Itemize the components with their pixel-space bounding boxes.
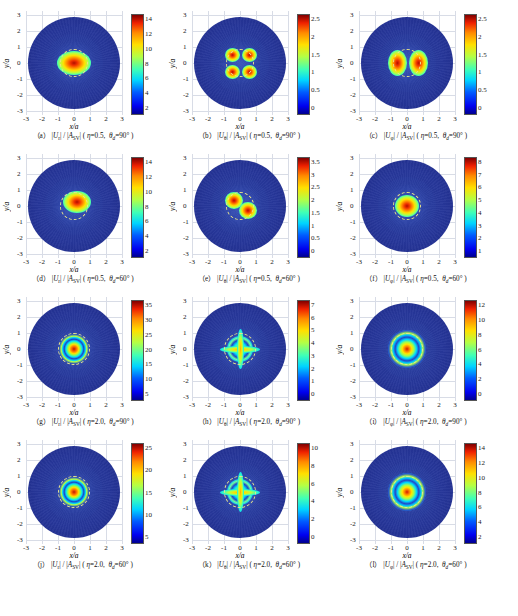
heatmap-disc bbox=[361, 17, 453, 109]
dashed-boundary-ring bbox=[393, 192, 421, 220]
y-axis-tick: -3 bbox=[183, 394, 189, 401]
plot-area: -3-2-101233210-1-2-3 bbox=[359, 440, 455, 544]
panel-caption-b: （b） |Uθ| / |ASV| ( η=0.5, θd=90° ) bbox=[166, 130, 332, 141]
y-axis-tick: -1 bbox=[183, 76, 189, 83]
y-axis-tick: 3 bbox=[17, 155, 21, 162]
dashed-boundary-ring bbox=[224, 333, 256, 365]
grid-line-vertical bbox=[122, 297, 123, 401]
plot-panel-c: y/a-3-2-101233210-1-2-3x/a2.521.510.50（c… bbox=[333, 0, 499, 143]
y-axis-tick: 2 bbox=[350, 457, 354, 464]
colorbar-tick: 3 bbox=[311, 352, 315, 360]
y-axis-tick: 3 bbox=[350, 155, 354, 162]
y-axis-tick: 1 bbox=[350, 330, 354, 337]
y-axis-tick: -3 bbox=[350, 108, 356, 115]
y-axis-tick: 3 bbox=[183, 441, 187, 448]
colorbar-tick: 3.5 bbox=[311, 158, 320, 166]
plot-panel-g: y/a-3-2-101233210-1-2-3x/a3530252015105（… bbox=[0, 286, 166, 429]
y-axis-tick: 1 bbox=[183, 44, 187, 51]
y-axis-tick: 0 bbox=[183, 203, 187, 210]
heatmap-disc bbox=[361, 446, 453, 538]
colorbar-tick: 4 bbox=[478, 518, 482, 526]
grid-line-horizontal bbox=[359, 254, 455, 255]
plot-panel-f: y/a-3-2-101233210-1-2-3x/a87654321（f） |U… bbox=[333, 143, 499, 286]
colorbar bbox=[297, 14, 310, 115]
y-axis-tick: 0 bbox=[183, 60, 187, 67]
colorbar bbox=[464, 157, 477, 258]
colorbar-tick: 6 bbox=[478, 346, 482, 354]
colorbar-tick: 14 bbox=[478, 444, 485, 452]
colorbar-tick: 4 bbox=[145, 232, 149, 240]
axes-background bbox=[192, 297, 288, 401]
colorbar-tick: 14 bbox=[145, 158, 152, 166]
colorbar-tick: 2 bbox=[311, 515, 315, 523]
plot-area: -3-2-101233210-1-2-3 bbox=[26, 297, 122, 401]
y-axis-tick: -2 bbox=[183, 378, 189, 385]
y-axis-tick: 3 bbox=[17, 298, 21, 305]
grid-line-horizontal bbox=[192, 397, 288, 398]
colorbar-tick: 2 bbox=[478, 533, 482, 541]
y-axis-tick: -1 bbox=[17, 362, 23, 369]
colorbar-tick: 6 bbox=[478, 183, 482, 191]
y-axis-tick: -2 bbox=[183, 235, 189, 242]
colorbar bbox=[297, 157, 310, 258]
dashed-boundary-ring bbox=[224, 476, 256, 508]
colorbar-tick: 0.5 bbox=[478, 86, 487, 94]
colorbar-tick: 5 bbox=[145, 533, 149, 541]
y-axis-tick: 2 bbox=[350, 28, 354, 35]
y-axis-tick: -2 bbox=[183, 521, 189, 528]
y-axis-label: y/a bbox=[1, 440, 11, 544]
y-axis-tick: 1 bbox=[17, 187, 21, 194]
y-axis-tick: -2 bbox=[17, 235, 23, 242]
y-axis-tick: -1 bbox=[183, 362, 189, 369]
colorbar-tick: 1 bbox=[478, 247, 482, 255]
y-axis-tick: -1 bbox=[17, 505, 23, 512]
plot-area: -3-2-101233210-1-2-3 bbox=[26, 440, 122, 544]
y-axis-label: y/a bbox=[167, 440, 177, 544]
y-axis-tick: 0 bbox=[350, 346, 354, 353]
y-axis-tick: 0 bbox=[183, 346, 187, 353]
y-axis-tick: -1 bbox=[17, 76, 23, 83]
colorbar-tick: 8 bbox=[311, 462, 315, 470]
y-axis-tick: -3 bbox=[350, 394, 356, 401]
panel-caption-g: （g） |Ur| / |ASV| ( η=2.0, θd=90° ) bbox=[0, 416, 166, 427]
y-axis-tick: 1 bbox=[183, 187, 187, 194]
y-axis-tick: 1 bbox=[350, 187, 354, 194]
y-axis-tick: -2 bbox=[350, 92, 356, 99]
y-axis-tick: 1 bbox=[17, 44, 21, 51]
colorbar-tick: 12 bbox=[145, 173, 152, 181]
y-axis-tick: -2 bbox=[350, 521, 356, 528]
grid-line-horizontal bbox=[26, 111, 122, 112]
grid-line-horizontal bbox=[26, 397, 122, 398]
y-axis-tick: -3 bbox=[350, 537, 356, 544]
y-axis-tick: 3 bbox=[17, 441, 21, 448]
colorbar-tick: 12 bbox=[478, 301, 485, 309]
dashed-boundary-ring bbox=[391, 476, 423, 508]
colorbar-tick: 2.5 bbox=[311, 183, 320, 191]
plot-panel-e: y/a-3-2-101233210-1-2-3x/a3.532.521.510.… bbox=[166, 143, 332, 286]
colorbar-tick: 2 bbox=[145, 104, 149, 112]
y-axis-tick: 0 bbox=[17, 203, 21, 210]
plot-area: -3-2-101233210-1-2-3 bbox=[192, 297, 288, 401]
colorbar-tick: 30 bbox=[145, 316, 152, 324]
dashed-boundary-ring bbox=[58, 476, 90, 508]
y-axis-tick: 2 bbox=[350, 171, 354, 178]
y-axis-tick: -1 bbox=[183, 219, 189, 226]
y-axis-tick: 1 bbox=[183, 330, 187, 337]
heatmap-disc bbox=[194, 17, 286, 109]
panel-caption-a: （a） |Ur| / |ASV| ( η=0.5, θd=90° ) bbox=[0, 130, 166, 141]
y-axis-tick: 3 bbox=[350, 441, 354, 448]
axes-background bbox=[26, 440, 122, 544]
y-axis-tick: 2 bbox=[17, 457, 21, 464]
colorbar bbox=[297, 300, 310, 401]
colorbar-tick: 7 bbox=[311, 301, 315, 309]
dashed-boundary-ring bbox=[60, 49, 88, 77]
y-axis-tick: -3 bbox=[17, 108, 23, 115]
y-axis-tick: 2 bbox=[183, 28, 187, 35]
heatmap-disc bbox=[28, 160, 120, 252]
colorbar-tick: 2.5 bbox=[478, 15, 487, 23]
heatmap-disc bbox=[361, 160, 453, 252]
panel-caption-d: （d） |Ur| / |ASV| ( η=0.5, θd=60° ) bbox=[0, 273, 166, 284]
y-axis-label: y/a bbox=[1, 11, 11, 115]
y-axis-tick: 0 bbox=[350, 203, 354, 210]
colorbar-tick: 1 bbox=[311, 68, 315, 76]
